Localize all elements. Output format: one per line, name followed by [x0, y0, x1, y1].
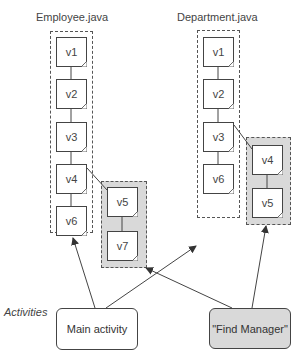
- page-fold-icon: [277, 169, 283, 175]
- version-label: v6: [66, 215, 78, 227]
- department-version-v4: v4: [252, 145, 283, 175]
- page-fold-icon: [132, 211, 138, 217]
- page-fold-icon: [81, 103, 87, 109]
- employee-version-v3: v3: [56, 122, 87, 152]
- page-fold-icon: [81, 146, 87, 152]
- department-version-v6: v6: [203, 164, 234, 194]
- version-label: v2: [213, 88, 225, 100]
- employee-version-v5: v5: [107, 187, 138, 217]
- version-label: v5: [262, 197, 274, 209]
- connector-lines: [0, 0, 305, 357]
- page-fold-icon: [81, 61, 87, 67]
- page-fold-icon: [228, 188, 234, 194]
- page-fold-icon: [277, 212, 283, 218]
- version-label: v4: [262, 154, 274, 166]
- version-label: v7: [117, 240, 129, 252]
- version-label: v3: [213, 131, 225, 143]
- activities-label: Activities: [4, 306, 47, 318]
- activity-main: Main activity: [56, 308, 138, 350]
- activity-main-label: Main activity: [67, 323, 128, 335]
- activity-find-manager: "Find Manager": [209, 308, 291, 349]
- version-label: v4: [66, 173, 78, 185]
- department-version-v5: v5: [252, 188, 283, 218]
- page-fold-icon: [228, 61, 234, 67]
- employee-version-v6: v6: [56, 206, 87, 236]
- employee-version-v4: v4: [56, 164, 87, 194]
- employee-version-v7: v7: [107, 231, 138, 261]
- version-label: v2: [66, 88, 78, 100]
- page-fold-icon: [228, 103, 234, 109]
- employee-version-v1: v1: [56, 37, 87, 67]
- page-fold-icon: [81, 230, 87, 236]
- version-label: v6: [213, 173, 225, 185]
- page-fold-icon: [132, 255, 138, 261]
- page-fold-icon: [228, 146, 234, 152]
- version-label: v1: [213, 46, 225, 58]
- department-version-v1: v1: [203, 37, 234, 67]
- version-label: v3: [66, 131, 78, 143]
- page-fold-icon: [81, 188, 87, 194]
- department-version-v2: v2: [203, 79, 234, 109]
- department-version-v3: v3: [203, 122, 234, 152]
- employee-version-v2: v2: [56, 79, 87, 109]
- activity-find-manager-label: "Find Manager": [212, 323, 288, 335]
- version-label: v5: [117, 196, 129, 208]
- version-label: v1: [66, 46, 78, 58]
